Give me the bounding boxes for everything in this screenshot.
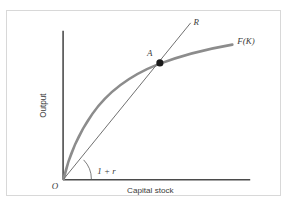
- x-axis-label: Capital stock: [127, 186, 174, 195]
- ray-r-label: R: [193, 17, 200, 27]
- production-function-curve: [64, 45, 233, 180]
- slope-label: 1 + r: [97, 166, 116, 176]
- figure-frame: A R F(K) 1 + r O Capital stock Output: [6, 10, 281, 196]
- production-function-chart: A R F(K) 1 + r O Capital stock Output: [7, 11, 280, 195]
- ray-line-r: [64, 23, 191, 179]
- y-axis-label: Output: [39, 93, 48, 118]
- point-a-label: A: [146, 49, 153, 59]
- slope-angle-arc: [84, 160, 92, 179]
- origin-label: O: [52, 181, 59, 191]
- curve-fk-label: F(K): [236, 36, 254, 46]
- tangency-point-a: [156, 59, 163, 66]
